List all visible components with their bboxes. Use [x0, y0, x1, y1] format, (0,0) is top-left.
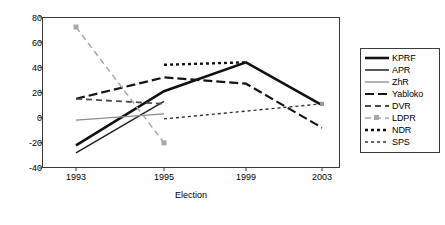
legend-label-yabloko: Yabloko	[392, 88, 423, 100]
legend-item-zhr[interactable]: ZhR	[364, 76, 437, 88]
legend-item-ldpr[interactable]: LDPR	[364, 112, 437, 124]
legend-label-kprf: KPRF	[392, 52, 416, 64]
x-axis-title: Election	[0, 190, 382, 200]
marker-ldpr	[162, 140, 167, 145]
legend-item-ndr[interactable]: NDR	[364, 124, 437, 136]
legend-key-yabloko	[364, 88, 390, 100]
legend-key-dvr	[364, 100, 390, 112]
legend-label-ndr: NDR	[392, 124, 411, 136]
legend-label-dvr: DVR	[392, 100, 411, 112]
legend-key-apr	[364, 64, 390, 76]
x-tick-label-2003: 2003	[300, 172, 344, 182]
legend-item-kprf[interactable]: KPRF	[364, 52, 437, 64]
legend-label-apr: APR	[392, 64, 410, 76]
legend-key-ndr	[364, 124, 390, 136]
legend-key-kprf	[364, 52, 390, 64]
series-sps-stub	[320, 102, 324, 106]
legend-label-sps: SPS	[392, 136, 410, 148]
legend-key-ldpr	[364, 112, 390, 124]
series-layer	[74, 25, 325, 153]
axis-tick-marks	[39, 17, 322, 171]
legend-key-sps	[364, 136, 390, 148]
x-tick-label-1993: 1993	[54, 172, 98, 182]
legend-label-zhr: ZhR	[392, 76, 409, 88]
chart-container: 80 60 40 20 0 -20 -40 1993 1995 1999 200…	[0, 0, 445, 225]
marker-ldpr	[74, 25, 79, 30]
legend-item-dvr[interactable]: DVR	[364, 100, 437, 112]
legend-key-zhr	[364, 76, 390, 88]
legend-item-apr[interactable]: APR	[364, 64, 437, 76]
legend-item-yabloko[interactable]: Yabloko	[364, 88, 437, 100]
legend-item-sps[interactable]: SPS	[364, 136, 437, 148]
x-tick-label-1999: 1999	[224, 172, 268, 182]
x-tick-label-1995: 1995	[142, 172, 186, 182]
legend: KPRF APR ZhR Yabloko DVR LDPR NDR SPS	[360, 48, 440, 153]
series-sps	[164, 104, 322, 119]
legend-label-ldpr: LDPR	[392, 112, 416, 124]
series-apr	[76, 101, 164, 153]
series-ndr	[164, 62, 246, 65]
